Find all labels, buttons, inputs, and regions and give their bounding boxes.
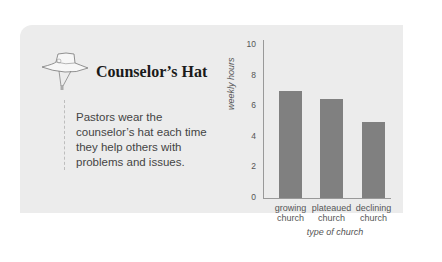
x-tick-label: growingchurch <box>268 203 314 223</box>
x-tick-label: plateauedchurch <box>309 203 355 223</box>
y-tick-label: 2 <box>240 161 256 171</box>
y-tick-label: 4 <box>240 131 256 141</box>
y-tick-label: 8 <box>240 70 256 80</box>
x-axis <box>263 198 391 199</box>
bar <box>320 99 343 198</box>
x-tick-label: decliningchurch <box>351 203 397 223</box>
y-tick-label: 6 <box>240 100 256 110</box>
y-axis <box>263 40 264 199</box>
y-tick-label: 10 <box>240 39 256 49</box>
bar <box>362 122 385 199</box>
y-tick-label: 0 <box>240 192 256 202</box>
bar-chart: weekly hours 0246810 growingchurchplatea… <box>0 0 442 262</box>
x-axis-label: type of church <box>280 227 390 237</box>
bar <box>279 91 302 198</box>
y-axis-label: weekly hours <box>226 57 236 110</box>
